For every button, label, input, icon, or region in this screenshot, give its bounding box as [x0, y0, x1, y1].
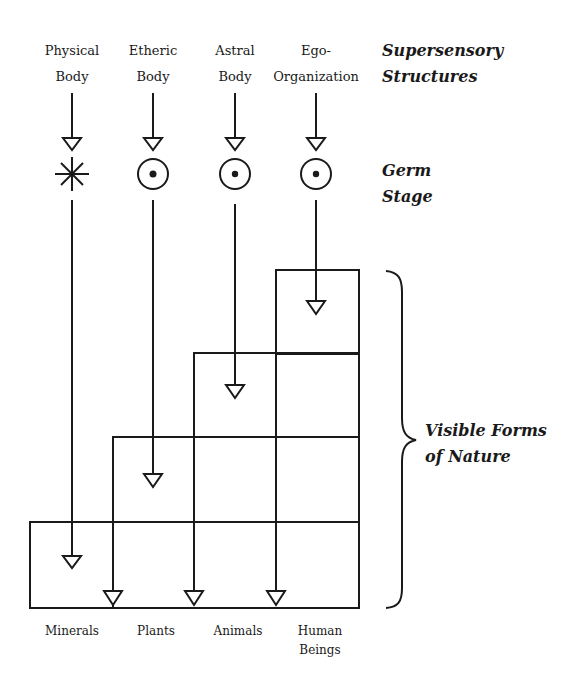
label-line: Animals [193, 622, 283, 641]
label-line: Plants [111, 622, 201, 641]
arrowhead-icon [267, 591, 285, 605]
label-line: Human [275, 622, 365, 641]
label-line: of Nature [425, 444, 547, 470]
arrowhead-icon [144, 138, 162, 150]
arrowhead-icon [307, 138, 325, 150]
arrowhead-icon [226, 138, 244, 150]
top-arrows [63, 93, 325, 150]
label-line: Organization [261, 64, 371, 90]
label-visible-forms-of-nature: Visible Forms of Nature [425, 418, 547, 470]
arrowhead-icon [104, 591, 122, 605]
label-plants: Plants [111, 622, 201, 641]
circled-dot-icon [220, 159, 250, 189]
arrowhead-icon [185, 591, 203, 605]
label-germ-stage: Germ Stage [382, 158, 433, 210]
circled-dot-icon [138, 159, 168, 189]
label-ego-organization: Ego- Organization [261, 38, 371, 90]
label-line: Ego- [261, 38, 371, 64]
label-line: Minerals [27, 622, 117, 641]
label-human-beings: Human Beings [275, 622, 365, 660]
arrowhead-icon [307, 301, 325, 314]
curly-brace-icon [386, 271, 416, 608]
label-line: Supersensory [382, 38, 503, 64]
arrowhead-icon [63, 138, 81, 150]
label-line: Visible Forms [425, 418, 547, 444]
label-supersensory-structures: Supersensory Structures [382, 38, 503, 90]
circled-dot-icon [301, 159, 331, 189]
arrowhead-icon [144, 474, 162, 487]
label-animals: Animals [193, 622, 283, 641]
label-line: Stage [382, 184, 433, 210]
asterisk-star-icon [55, 157, 89, 191]
label-line: Germ [382, 158, 433, 184]
label-minerals: Minerals [27, 622, 117, 641]
diagram-canvas [0, 0, 580, 689]
arrowhead-icon [226, 385, 244, 398]
label-line: Structures [382, 64, 503, 90]
arrowhead-icon [63, 556, 81, 568]
label-line: Beings [275, 641, 365, 660]
